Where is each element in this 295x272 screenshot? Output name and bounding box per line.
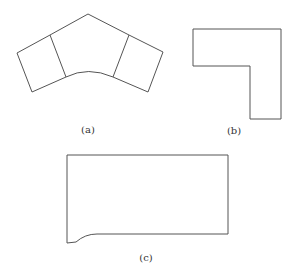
panel-a-left-divider [50, 35, 66, 77]
panel-b-label: (b) [227, 125, 241, 136]
panel-c-outline [67, 155, 228, 243]
panel-a: (a) [17, 14, 163, 135]
panel-b-outline [193, 29, 281, 119]
panel-c-label: (c) [139, 252, 153, 263]
panel-a-outline [17, 14, 163, 92]
panel-a-right-divider [113, 35, 129, 77]
panel-a-label: (a) [81, 124, 95, 135]
figure-canvas: (a) (b) (c) [0, 0, 295, 272]
panel-c: (c) [67, 155, 228, 263]
panel-b: (b) [193, 29, 281, 136]
